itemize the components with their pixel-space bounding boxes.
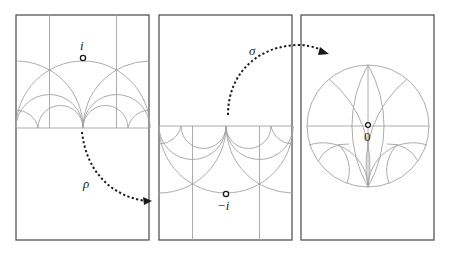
- point-origin-marker: [366, 123, 371, 128]
- panel-lower-half-plane: −i: [159, 15, 293, 240]
- point-origin-label: 0: [364, 129, 371, 144]
- point-i-label: i: [80, 38, 84, 53]
- point-i-marker: [80, 55, 85, 60]
- rho-arrow-path: [82, 132, 146, 201]
- sigma-arrowhead: [318, 47, 329, 55]
- sigma-arrow-path: [228, 45, 324, 115]
- panel-upper-half-plane: i: [16, 15, 150, 240]
- point-minus-i-marker: [223, 191, 228, 196]
- geodesic-lines: [159, 126, 293, 240]
- rho-label: ρ: [82, 176, 89, 191]
- point-minus-i-label: −i: [217, 198, 230, 213]
- map-arrow-rho: ρ: [82, 132, 152, 205]
- map-arrow-sigma: σ: [228, 43, 329, 115]
- sigma-label: σ: [249, 43, 256, 58]
- rho-arrowhead: [143, 197, 152, 205]
- geodesic-lines: [16, 15, 150, 128]
- figure-canvas: i −i: [0, 0, 449, 254]
